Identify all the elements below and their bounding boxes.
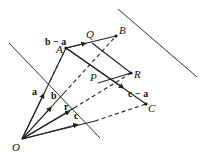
label-vector-b: b [51,90,57,101]
label-vector-a: a [32,86,37,97]
segment-QR [92,43,131,73]
vector-b-arrow-icon [22,109,50,140]
label-P: P [89,71,97,83]
label-C: C [148,102,156,114]
vector-c-line-dashed [95,104,146,121]
vector-b-minus-a-arrow-icon [66,44,84,48]
label-vector-b-minus-a: b − a [45,36,66,47]
point-R-dot [129,71,132,74]
label-Q: Q [86,28,94,40]
point-B-dot [114,34,117,37]
vector-r-line-dashed [74,73,131,108]
vector-plane-diagram: O A B C P Q R a b r c b − a c − a [0,0,209,154]
label-O: O [12,141,20,153]
label-R: R [133,68,141,80]
plane-line-right [118,9,197,77]
vector-c-arrow-icon [22,125,76,139]
label-vector-c-minus-a: c − a [128,88,148,99]
label-vector-r: r [64,101,69,112]
label-B: B [119,24,126,36]
label-vector-c: c [74,110,79,121]
